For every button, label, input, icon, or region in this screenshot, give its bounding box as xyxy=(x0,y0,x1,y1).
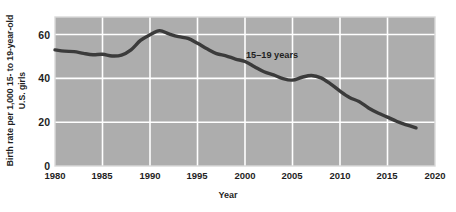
x-tick-2020: 2020 xyxy=(412,170,456,181)
x-tick-1985: 1985 xyxy=(79,170,125,181)
chart-figure: Birth rate per 1,000 15- to 19-year-old … xyxy=(0,0,456,212)
x-tick-2000: 2000 xyxy=(222,170,268,181)
x-tick-2015: 2015 xyxy=(364,170,410,181)
x-tick-1980: 1980 xyxy=(32,170,78,181)
series-annotation-15-19-years: 15–19 years xyxy=(246,50,298,60)
x-tick-2010: 2010 xyxy=(317,170,363,181)
x-axis-label: Year xyxy=(0,190,456,200)
x-tick-1995: 1995 xyxy=(174,170,220,181)
x-tick-2005: 2005 xyxy=(269,170,315,181)
x-tick-1990: 1990 xyxy=(127,170,173,181)
